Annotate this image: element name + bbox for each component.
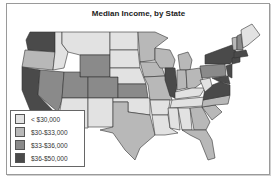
legend-item: $30-$33,000 [15,127,68,137]
state-ms [168,108,180,130]
state-wi [155,48,175,68]
legend: < $30,000 $30-$33,000 $33-$36,000 $36-$5… [10,110,85,167]
state-ks [118,84,148,98]
legend-swatch [15,153,25,163]
legend-item: < $30,000 [15,114,60,124]
legend-label: $30-$33,000 [31,129,68,136]
state-nd [110,32,138,50]
state-in [177,70,187,90]
legend-label: $36-$50,000 [31,155,68,162]
legend-swatch [15,114,25,124]
legend-swatch [15,127,25,137]
state-pa [200,64,226,78]
state-vt [232,37,237,50]
legend-item: $36-$50,000 [15,153,68,163]
state-me [241,24,260,48]
state-wa [26,32,55,52]
state-nm [88,98,113,127]
state-wy [80,55,110,77]
state-mt [62,32,110,55]
state-al [178,108,192,130]
state-fl [182,130,215,160]
legend-label: $33-$36,000 [31,142,68,149]
state-mi [178,52,192,70]
legend-swatch [15,140,25,150]
state-or [22,50,55,70]
state-ma [234,50,248,58]
state-sd [110,50,140,68]
state-ar [150,100,170,115]
legend-label: < $30,000 [31,116,60,123]
legend-item: $33-$36,000 [15,140,68,150]
state-co [88,77,118,98]
state-oh [186,68,203,90]
